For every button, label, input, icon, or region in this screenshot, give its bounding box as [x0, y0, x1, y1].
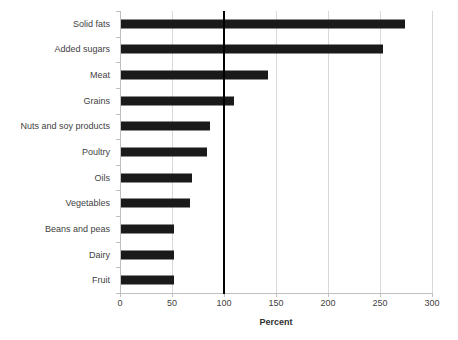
bar-row [120, 165, 432, 191]
category-label: Meat [0, 62, 114, 88]
bar-row [120, 139, 432, 165]
y-axis-tick [116, 242, 120, 243]
category-label: Dairy [0, 242, 114, 268]
bar [120, 199, 190, 208]
category-label: Fruit [0, 267, 114, 293]
bar [120, 224, 174, 233]
y-axis-tick [116, 139, 120, 140]
bar [120, 147, 207, 156]
x-axis-tick-label: 100 [216, 298, 231, 309]
category-label: Solid fats [0, 11, 114, 37]
bar-row [120, 62, 432, 88]
category-label: Vegetables [0, 190, 114, 216]
y-axis-tick [116, 114, 120, 115]
x-axis-tick [380, 293, 381, 297]
category-label: Nuts and soy products [0, 114, 114, 140]
category-label: Grains [0, 88, 114, 114]
bar-row [120, 190, 432, 216]
x-axis-tick [432, 293, 433, 297]
category-label: Added sugars [0, 37, 114, 63]
bar [120, 173, 192, 182]
bar [120, 96, 234, 105]
x-axis-tick-label: 300 [424, 298, 439, 309]
category-axis-labels: Solid fatsAdded sugarsMeatGrainsNuts and… [0, 11, 114, 293]
y-axis-tick [116, 88, 120, 89]
y-axis-tick [116, 62, 120, 63]
y-axis-line [120, 11, 121, 293]
bar-row [120, 216, 432, 242]
x-axis-tick [328, 293, 329, 297]
bar-row [120, 88, 432, 114]
x-axis-tick-label: 0 [117, 298, 122, 309]
category-label: Poultry [0, 139, 114, 165]
x-axis-tick-label: 150 [268, 298, 283, 309]
x-axis-title: Percent [120, 317, 432, 327]
y-axis-tick [116, 267, 120, 268]
bar-row [120, 11, 432, 37]
reference-line-100 [223, 11, 225, 294]
bar [120, 250, 174, 259]
category-label: Oils [0, 165, 114, 191]
bar-row [120, 37, 432, 63]
x-axis-tick-label: 250 [372, 298, 387, 309]
category-label: Beans and peas [0, 216, 114, 242]
x-axis-tick-label: 50 [167, 298, 177, 309]
y-axis-tick [116, 11, 120, 12]
x-axis-tick [120, 293, 121, 297]
y-axis-tick [116, 216, 120, 217]
bar [120, 19, 405, 28]
bar [120, 122, 210, 131]
x-axis-tick-label: 200 [320, 298, 335, 309]
y-axis-tick [116, 190, 120, 191]
y-axis-tick [116, 165, 120, 166]
x-axis-tick [276, 293, 277, 297]
bar [120, 45, 383, 54]
bar [120, 276, 174, 285]
x-axis-tick [172, 293, 173, 297]
plot-area [120, 11, 432, 293]
bar [120, 71, 268, 80]
gridline-300 [432, 11, 433, 293]
bar-chart: Solid fatsAdded sugarsMeatGrainsNuts and… [0, 0, 458, 340]
bar-row [120, 114, 432, 140]
bar-row [120, 242, 432, 268]
bar-row [120, 267, 432, 293]
y-axis-tick [116, 37, 120, 38]
